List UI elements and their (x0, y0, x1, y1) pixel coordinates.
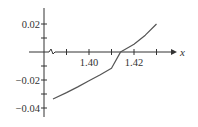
y-tick-label: −0.04 (16, 103, 41, 114)
y-tick-label: 0.02 (22, 19, 40, 30)
chart: 0.02−0.02−0.04 x1.401.42 (0, 0, 198, 127)
x-tick-label: 1.42 (125, 57, 143, 68)
x-axis: x1.401.42 (29, 46, 185, 69)
axis-break-icon (49, 49, 55, 54)
y-tick-label: −0.02 (16, 75, 40, 86)
x-tick-label: 1.40 (80, 57, 98, 68)
y-axis: 0.02−0.02−0.04 (16, 8, 47, 117)
arrow-right-icon (171, 49, 177, 55)
x-axis-label: x (179, 46, 185, 58)
